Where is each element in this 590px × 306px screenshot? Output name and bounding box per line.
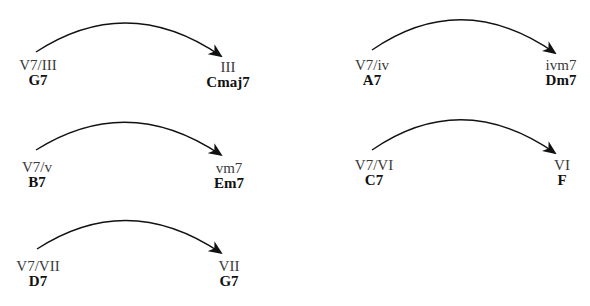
chord-name: F <box>522 173 590 188</box>
chord-name: C7 <box>334 173 414 188</box>
target-chord-label: III Cmaj7 <box>188 60 268 90</box>
resolution-arrow-icon <box>37 220 221 253</box>
chord-name: G7 <box>189 274 269 289</box>
target-chord-label: VII G7 <box>189 259 269 289</box>
resolution-arrow-icon <box>372 20 555 53</box>
roman-numeral: ivm7 <box>521 58 590 73</box>
chord-name: G7 <box>0 73 78 88</box>
chord-name: Em7 <box>189 176 269 191</box>
secondary-dominants-diagram: V7/III G7 III Cmaj7 V7/iv A7 ivm7 Dm7 V7… <box>0 0 590 306</box>
chord-name: A7 <box>332 73 412 88</box>
resolution-arrow-icon <box>36 23 221 56</box>
chord-name: D7 <box>0 274 78 289</box>
arrows-layer <box>0 0 590 306</box>
roman-numeral: VI <box>522 158 590 173</box>
roman-numeral: V7/v <box>0 160 77 175</box>
chord-name: Cmaj7 <box>188 75 268 90</box>
source-chord-label: V7/VI C7 <box>334 158 414 188</box>
source-chord-label: V7/iv A7 <box>332 58 412 88</box>
roman-numeral: VII <box>189 259 269 274</box>
roman-numeral: V7/VI <box>334 158 414 173</box>
roman-numeral: vm7 <box>189 161 269 176</box>
chord-name: B7 <box>0 175 77 190</box>
resolution-arrow-icon <box>372 120 555 153</box>
source-chord-label: V7/III G7 <box>0 58 78 88</box>
target-chord-label: vm7 Em7 <box>189 161 269 191</box>
roman-numeral: III <box>188 60 268 75</box>
roman-numeral: V7/iv <box>332 58 412 73</box>
roman-numeral: V7/VII <box>0 259 78 274</box>
source-chord-label: V7/v B7 <box>0 160 77 190</box>
target-chord-label: ivm7 Dm7 <box>521 58 590 88</box>
chord-name: Dm7 <box>521 73 590 88</box>
resolution-arrow-icon <box>36 122 221 155</box>
roman-numeral: V7/III <box>0 58 78 73</box>
target-chord-label: VI F <box>522 158 590 188</box>
source-chord-label: V7/VII D7 <box>0 259 78 289</box>
